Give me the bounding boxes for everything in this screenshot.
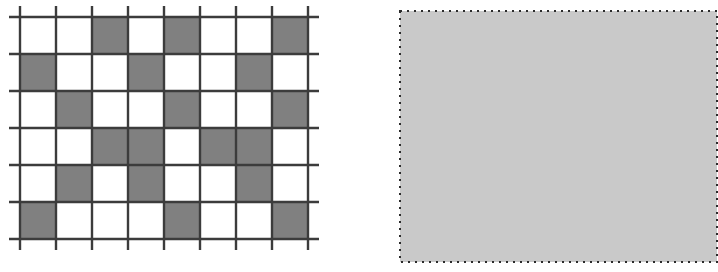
grid-cell-filled <box>200 128 236 165</box>
grid-cell-filled <box>236 128 272 165</box>
checkered-grid-svg <box>0 0 360 272</box>
grid-cell-filled <box>92 17 128 54</box>
grid-lines-group <box>9 6 319 250</box>
grid-cell-filled <box>272 202 308 239</box>
grid-cell-filled <box>272 17 308 54</box>
figure-root <box>0 0 718 272</box>
grid-cell-filled <box>236 54 272 91</box>
shaded-rectangle-panel <box>398 9 718 263</box>
grid-cell-filled <box>164 17 200 54</box>
grid-cell-filled <box>272 91 308 128</box>
grid-cell-filled <box>20 54 56 91</box>
grid-cell-filled <box>164 202 200 239</box>
shaded-rectangle-svg <box>398 9 718 263</box>
grid-cell-filled <box>20 202 56 239</box>
grid-cell-filled <box>128 54 164 91</box>
shaded-rectangle-fill <box>400 11 717 262</box>
checkered-grid-panel <box>0 0 360 272</box>
grid-cell-filled <box>236 165 272 202</box>
grid-cell-filled <box>128 165 164 202</box>
grid-cell-filled <box>92 128 128 165</box>
grid-cell-filled <box>56 91 92 128</box>
grid-cell-filled <box>56 165 92 202</box>
grid-cell-filled <box>164 91 200 128</box>
grid-cell-filled <box>128 128 164 165</box>
